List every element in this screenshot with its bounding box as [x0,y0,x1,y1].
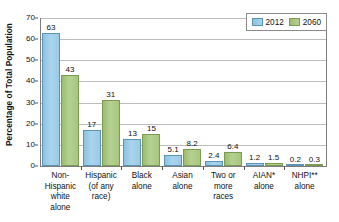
bar-2012-6[interactable] [286,164,304,166]
y-tick-mark [35,39,38,40]
y-tick-label: 10 [17,141,35,149]
bar-2012-3[interactable] [164,155,182,166]
x-tick-mark [244,166,245,170]
x-axis-label-line: Hispanic [38,182,82,193]
x-axis-label-1: Hispanic(of anyrace) [79,171,123,203]
bar-2060-6[interactable] [305,164,323,166]
x-axis-label-0: Non-Hispanicwhitealone [38,171,82,213]
legend-swatch-2060 [289,18,300,26]
y-tick-label: 50 [17,56,35,64]
x-axis-label-6: NHPI**alone [283,171,327,192]
legend-label-2012: 2012 [266,18,284,27]
bar-chart: Percentage of Total Population 706050403… [0,0,339,222]
x-axis-label-line: races [201,192,245,203]
bar-group: 0.20.3 [284,18,325,166]
y-tick-label: 70 [17,14,35,22]
x-tick-mark [284,166,285,170]
x-tick-mark [162,166,163,170]
bar-value-label: 0.3 [299,155,329,164]
legend-swatch-2012 [252,18,263,26]
x-axis-label-line: Hispanic [79,171,123,182]
y-tick-mark [35,166,38,167]
legend-item-2060: 2060 [289,18,321,27]
chart-legend: 2012 2060 [246,13,327,31]
bar-2012-5[interactable] [246,163,264,166]
bar-value-label: 63 [36,23,66,32]
x-axis-label-line: Two or [201,171,245,182]
y-axis-title: Percentage of Total Population [0,0,18,168]
x-axis-label-line: alone [38,203,82,214]
y-tick-mark [35,144,38,145]
bar-group: 6343 [40,18,81,166]
bar-2012-4[interactable] [205,161,223,166]
bar-2012-1[interactable] [83,130,101,166]
x-tick-mark [81,166,82,170]
bar-2012-2[interactable] [123,139,141,166]
y-axis-title-text: Percentage of Total Population [5,23,14,146]
y-tick-label: 40 [17,77,35,85]
x-axis-label-5: AIAN*alone [242,171,286,192]
y-tick-label: 0 [17,162,35,170]
y-tick-mark [35,123,38,124]
x-axis-label-line: Asian [161,171,205,182]
bar-group: 5.18.2 [162,18,203,166]
x-axis-label-line: Non- [38,171,82,182]
x-axis-label-line: alone [242,182,286,193]
x-axis-label-line: more [201,182,245,193]
x-axis-label-line: AIAN* [242,171,286,182]
y-tick-label: 60 [17,35,35,43]
x-axis-category-labels: Non-HispanicwhitealoneHispanic(of anyrac… [40,171,325,221]
bars-layer: 6343173113155.18.22.46.41.21.50.20.3 [40,18,325,166]
legend-item-2012: 2012 [252,18,284,27]
bar-group: 1.21.5 [244,18,285,166]
x-axis-label-4: Two ormoreraces [201,171,245,203]
y-tick-mark [35,18,38,19]
x-axis-label-line: race) [79,192,123,203]
y-tick-label: 30 [17,99,35,107]
y-tick-mark [35,81,38,82]
legend-label-2060: 2060 [303,18,321,27]
bar-group: 2.46.4 [203,18,244,166]
y-tick-mark [35,102,38,103]
x-axis-label-line: NHPI** [283,171,327,182]
x-tick-mark [121,166,122,170]
y-tick-label: 20 [17,120,35,128]
bar-group: 1731 [81,18,122,166]
bar-2012-0[interactable] [42,33,60,166]
x-axis-label-line: Black [120,171,164,182]
x-axis-label-line: (of any [79,182,123,193]
x-axis-label-line: alone [161,182,205,193]
y-tick-mark [35,60,38,61]
x-axis-label-3: Asianalone [161,171,205,192]
x-axis-label-line: white [38,192,82,203]
x-axis-label-line: alone [120,182,164,193]
x-tick-mark [203,166,204,170]
bar-group: 1315 [121,18,162,166]
x-axis-label-2: Blackalone [120,171,164,192]
x-axis-label-line: alone [283,182,327,193]
y-axis-tick-labels: 706050403020100 [18,12,38,172]
